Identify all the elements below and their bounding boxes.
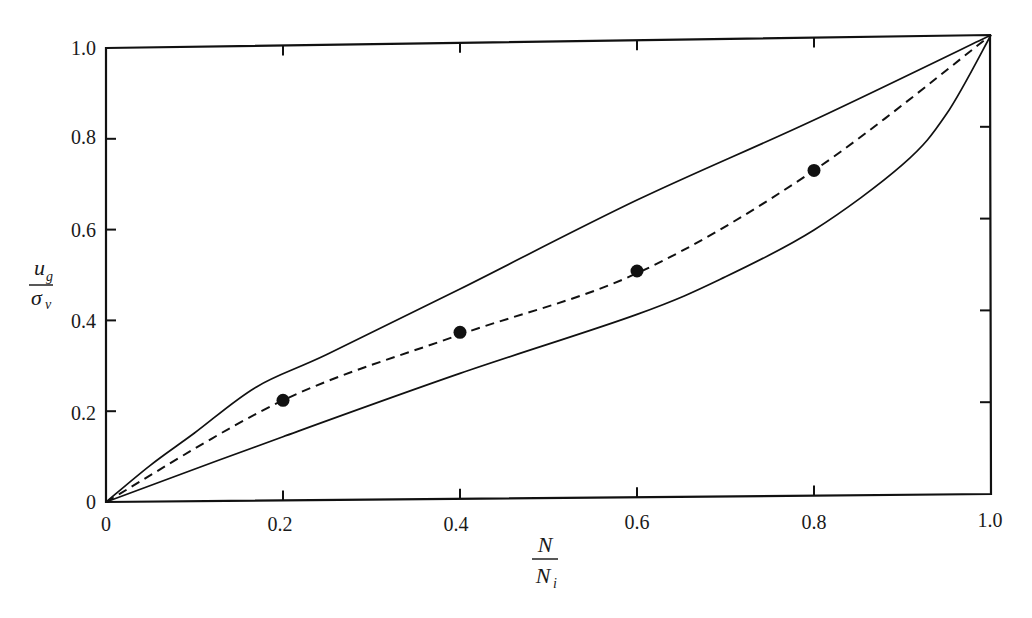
y-tick-label: 0.2 — [71, 402, 96, 424]
svg-text:N: N — [535, 563, 552, 588]
data-point-marker — [808, 164, 821, 177]
x-tick-label: 1.0 — [978, 509, 1003, 531]
y-tick-labels: 0 0.2 0.4 0.6 0.8 1.0 — [71, 37, 96, 513]
x-tick-label: 0 — [101, 513, 111, 535]
x-tick-label: 0.8 — [802, 511, 827, 533]
svg-text:u: u — [34, 255, 45, 280]
data-point-marker — [277, 394, 290, 407]
plot-frame — [106, 35, 991, 502]
x-tick-label: 0.6 — [625, 511, 650, 533]
curves — [106, 35, 991, 502]
axis-ticks — [106, 38, 990, 501]
upper-bound-curve — [106, 35, 991, 502]
dashed-mean-curve — [106, 35, 991, 502]
chart: 0 0.2 0.4 0.6 0.8 1.0 0 0.2 0.4 0.6 0.8 … — [0, 0, 1032, 618]
svg-text:v: v — [45, 297, 52, 312]
svg-text:σ: σ — [31, 285, 43, 310]
svg-text:N: N — [537, 532, 554, 557]
y-tick-label: 0.4 — [71, 310, 96, 332]
lower-bound-curve — [106, 35, 991, 502]
x-axis-label: N N i — [532, 532, 558, 591]
y-axis-label: u g σ v — [29, 255, 53, 312]
x-tick-label: 0.2 — [268, 513, 293, 535]
y-tick-label: 0.8 — [71, 126, 96, 148]
y-tick-label: 0.6 — [71, 219, 96, 241]
x-tick-label: 0.4 — [444, 513, 469, 535]
data-point-marker — [631, 264, 644, 277]
y-tick-label: 1.0 — [71, 37, 96, 59]
y-tick-label: 0 — [86, 491, 96, 513]
data-point-marker — [454, 326, 467, 339]
svg-text:g: g — [46, 269, 53, 284]
svg-text:i: i — [553, 576, 557, 591]
